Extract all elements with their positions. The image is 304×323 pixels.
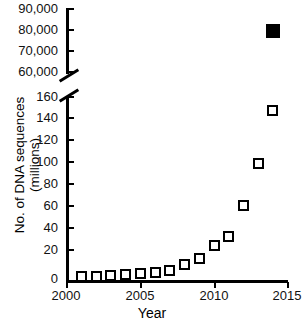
- data-point-2003: [105, 270, 116, 281]
- data-point-2012: [238, 200, 249, 211]
- y-tick-140: [68, 117, 74, 119]
- y-tick-80: [68, 183, 74, 185]
- data-point-2009: [194, 253, 205, 264]
- y-tick-label-0: 0: [0, 272, 58, 285]
- data-point-2006: [150, 267, 161, 278]
- data-point-2011: [223, 231, 234, 242]
- y-axis-title-line2: (millions): [27, 90, 42, 240]
- y-tick-label-20: 20: [0, 243, 58, 256]
- data-point-2013: [253, 158, 264, 169]
- y-tick-60: [68, 205, 74, 207]
- upper-y-tick-90000: [68, 8, 74, 10]
- data-point-2014: [267, 105, 278, 116]
- upper-y-axis-line: [66, 8, 69, 74]
- y-tick-120: [68, 139, 74, 141]
- x-tick-label-2010: 2010: [190, 289, 238, 302]
- y-tick-label-80000: 80,000: [0, 23, 58, 36]
- x-tick-label-2000: 2000: [42, 289, 90, 302]
- dna-sequences-chart: 90,000 80,000 70,000 60,000 160 140 120 …: [0, 0, 304, 323]
- y-axis-title: No. of DNA sequences (millions): [12, 90, 42, 240]
- upper-y-tick-70000: [68, 50, 74, 52]
- x-tick-label-2005: 2005: [116, 289, 164, 302]
- data-point-2010: [209, 240, 220, 251]
- data-point-2007: [164, 265, 175, 276]
- data-point-2004: [120, 269, 131, 280]
- x-tick-label-2015: 2015: [263, 289, 304, 302]
- y-tick-label-70000: 70,000: [0, 44, 58, 57]
- upper-y-tick-80000: [68, 29, 74, 31]
- lower-y-axis-line: [66, 96, 69, 282]
- y-tick-20: [68, 249, 74, 251]
- y-tick-label-60000: 60,000: [0, 65, 58, 78]
- y-tick-160: [68, 96, 74, 98]
- y-tick-40: [68, 227, 74, 229]
- data-point-2008: [179, 259, 190, 270]
- y-tick-100: [68, 161, 74, 163]
- data-point-2002: [91, 271, 102, 282]
- data-point-2001: [76, 271, 87, 282]
- y-tick-label-90000: 90,000: [0, 2, 58, 15]
- data-point-2015-filled: [266, 24, 280, 38]
- y-axis-title-line1: No. of DNA sequences: [12, 90, 27, 240]
- data-point-2005: [135, 268, 146, 279]
- x-axis-title: Year: [0, 305, 304, 321]
